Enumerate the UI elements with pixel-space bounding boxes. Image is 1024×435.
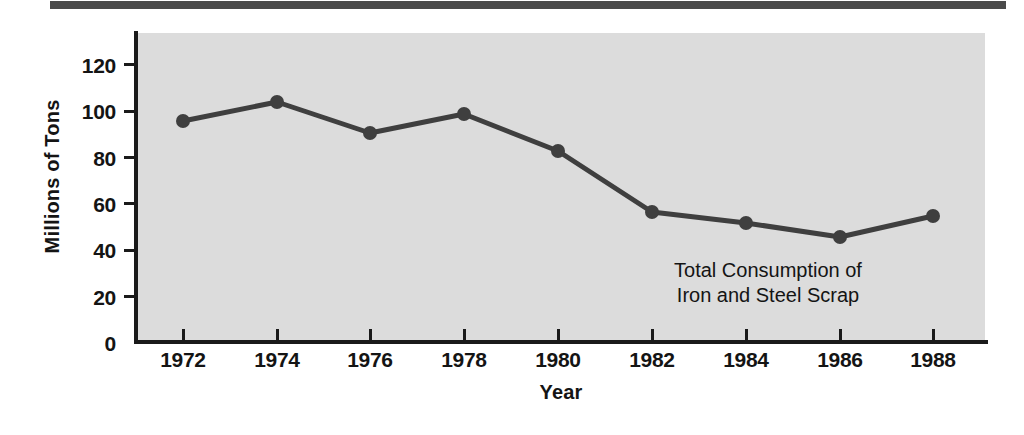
top-rule-divider (50, 1, 1006, 9)
y-tick-label: 80 (56, 147, 116, 171)
x-axis-line (134, 340, 988, 344)
y-tick-mark (124, 63, 137, 66)
y-tick-mark (124, 249, 137, 252)
x-tick-mark (839, 329, 842, 342)
y-tick-mark (124, 295, 137, 298)
y-tick-mark (124, 110, 137, 113)
y-tick-mark (124, 156, 137, 159)
y-tick-mark (124, 202, 137, 205)
y-tick-label: 100 (56, 100, 116, 124)
x-tick-mark (463, 329, 466, 342)
x-tick-mark (745, 329, 748, 342)
y-tick-label: 0 (56, 332, 116, 356)
x-axis-title: Year (137, 381, 985, 404)
y-tick-label: 60 (56, 193, 116, 217)
series-annotation-label: Total Consumption of Iron and Steel Scra… (618, 258, 918, 308)
y-axis-title: Millions of Tons (41, 32, 64, 322)
x-tick-mark (932, 329, 935, 342)
annotation-line-1: Total Consumption of (618, 258, 918, 283)
x-tick-mark (276, 329, 279, 342)
y-tick-label: 40 (56, 239, 116, 263)
x-tick-mark (651, 329, 654, 342)
chart-figure: 120100806040200 197219741976197819801982… (0, 0, 1024, 435)
annotation-line-2: Iron and Steel Scrap (618, 283, 918, 308)
x-tick-mark (369, 329, 372, 342)
x-tick-label: 1988 (878, 348, 988, 372)
x-tick-mark (557, 329, 560, 342)
x-tick-mark (182, 329, 185, 342)
y-tick-label: 120 (56, 54, 116, 78)
y-tick-label: 20 (56, 286, 116, 310)
